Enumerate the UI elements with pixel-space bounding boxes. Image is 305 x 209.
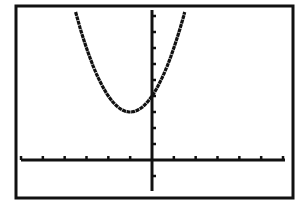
graph-screen [0, 0, 305, 209]
screen-border [16, 6, 293, 198]
